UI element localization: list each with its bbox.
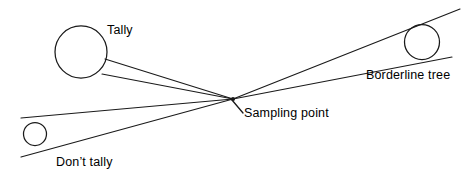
borderline-tree-label: Borderline tree: [366, 69, 450, 82]
borderline-tree-circle: [405, 25, 440, 60]
diagram-canvas: [0, 0, 462, 173]
tally-tree-circle: [55, 26, 107, 78]
sampling-point-label: Sampling point: [244, 107, 329, 120]
sampling-point-leader-line: [232, 100, 243, 113]
tree-circle-group: [24, 25, 440, 146]
sight-line-group: [21, 9, 460, 157]
dont-tally-lower-sight-line: [21, 99, 233, 157]
tally-lower-sight-line: [102, 74, 233, 99]
figure-container: Tally Borderline tree Sampling point Don…: [0, 0, 462, 173]
tally-label: Tally: [107, 24, 133, 37]
dont-tally-label: Don’t tally: [56, 156, 113, 169]
dont-tally-tree-circle: [24, 123, 47, 146]
dont-tally-upper-sight-line: [21, 99, 233, 118]
sampling-point-marker: [231, 97, 235, 101]
tally-upper-sight-line: [105, 59, 233, 99]
borderline-upper-sight-line: [233, 9, 460, 99]
